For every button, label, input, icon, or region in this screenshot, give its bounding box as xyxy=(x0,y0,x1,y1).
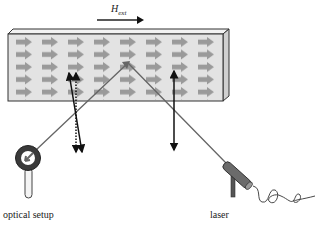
laser-icon xyxy=(221,160,315,202)
field-subscript: ext xyxy=(118,9,126,17)
laser-cable xyxy=(253,186,315,203)
diagram-canvas xyxy=(0,0,319,227)
laser-label: laser xyxy=(210,209,229,220)
magnetic-sample xyxy=(8,29,229,101)
optical-setup-label: optical setup xyxy=(3,209,54,220)
external-field-arrow xyxy=(97,16,144,24)
optical-setup-icon xyxy=(16,146,41,199)
external-field-label: Hext xyxy=(111,3,126,17)
